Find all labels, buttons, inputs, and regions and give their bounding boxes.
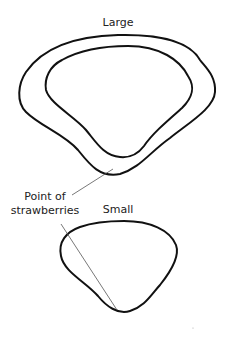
diagram-canvas [0,0,226,342]
small-outline [60,221,177,312]
label-pointer-line1: Point of [10,190,80,204]
label-small: Small [98,203,138,217]
label-large: Large [98,16,138,30]
stray-dot [192,327,193,328]
pointer-line-small [61,224,117,310]
label-pointer-line2: strawberries [4,204,86,218]
